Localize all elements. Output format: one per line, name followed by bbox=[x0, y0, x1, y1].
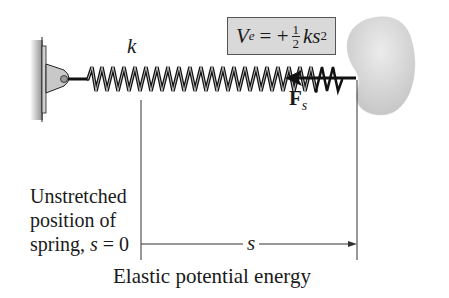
unstretched-line-3-var: s bbox=[90, 233, 98, 255]
formula-lhs: V bbox=[236, 24, 249, 49]
formula-lhs-subscript: e bbox=[249, 28, 255, 44]
formula-fraction: 1 2 bbox=[292, 23, 301, 50]
bracket-icon bbox=[46, 64, 88, 93]
force-label: Fs bbox=[289, 86, 307, 114]
formula-equals: = + bbox=[260, 24, 289, 49]
figure-caption: Elastic potential energy bbox=[113, 264, 311, 289]
displacement-label: s bbox=[243, 231, 259, 256]
unstretched-line-3-suffix: = 0 bbox=[98, 233, 129, 255]
displacement-arrow-icon bbox=[348, 241, 357, 247]
formula-rhs: ks bbox=[303, 24, 321, 49]
unstretched-line-1: Unstretched bbox=[30, 184, 150, 208]
unstretched-line-3-prefix: spring, bbox=[30, 233, 90, 255]
force-label-subscript: s bbox=[302, 98, 307, 113]
wall-support bbox=[30, 37, 46, 122]
fraction-numerator: 1 bbox=[292, 23, 301, 37]
fraction-denominator: 2 bbox=[293, 37, 300, 50]
unstretched-label: Unstretched position of spring, s = 0 bbox=[30, 184, 150, 256]
unstretched-line-2: position of bbox=[30, 208, 150, 232]
formula-box: Ve = + 1 2 ks2 bbox=[227, 17, 336, 55]
unstretched-line-3: spring, s = 0 bbox=[30, 232, 150, 256]
formula-exponent: 2 bbox=[321, 28, 328, 44]
force-label-main: F bbox=[289, 86, 302, 110]
spring-constant-label: k bbox=[127, 34, 136, 59]
